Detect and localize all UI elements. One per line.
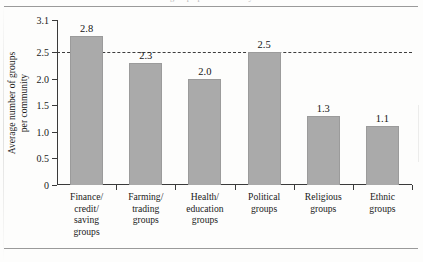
y-axis-line <box>57 20 58 185</box>
x-axis-category-line: trading <box>114 203 178 215</box>
plot-area: 00.51.01.52.02.53.1 2.8Finance/credit/sa… <box>57 20 412 185</box>
bar-value-label: 2.0 <box>198 66 211 77</box>
x-axis-category-line: groups <box>232 203 296 215</box>
x-axis-category-label: Politicalgroups <box>232 191 296 214</box>
x-axis-category-line: Religious <box>291 191 355 203</box>
bar-value-label: 2.5 <box>258 39 271 50</box>
bar-value-label: 2.3 <box>139 50 152 61</box>
y-axis-title-text: Average number of groups per community <box>6 51 29 153</box>
bar-value-label: 2.8 <box>80 23 93 34</box>
y-tick-mark <box>52 132 57 133</box>
x-axis-category-line: Ethnic <box>350 191 414 203</box>
bar[interactable]: 1.3Religiousgroups <box>307 116 340 185</box>
x-tick-mark <box>235 185 236 190</box>
y-axis-title-line-1: Average number of groups <box>6 51 18 153</box>
x-tick-mark <box>412 185 413 190</box>
reference-line <box>57 52 412 53</box>
y-axis-title-line-2: per community <box>17 51 29 153</box>
bar[interactable]: 1.1Ethnicgroups <box>366 126 399 185</box>
x-tick-mark <box>294 185 295 190</box>
x-axis-category-line: Political <box>232 191 296 203</box>
bar[interactable]: 2.0Health/educationgroups <box>188 79 221 185</box>
bar-chart: Average number of groups per community 0… <box>0 0 423 262</box>
x-axis-category-line: groups <box>173 214 237 226</box>
y-tick-label: 1.5 <box>37 100 50 111</box>
bar-value-label: 1.3 <box>317 103 330 114</box>
bar[interactable]: 2.5Politicalgroups <box>248 52 281 185</box>
x-axis-category-line: Finance/ <box>55 191 119 203</box>
y-tick-label: 0.5 <box>37 153 50 164</box>
x-axis-category-line: groups <box>114 214 178 226</box>
x-axis-category-line: Farming/ <box>114 191 178 203</box>
bar[interactable]: 2.3Farming/tradinggroups <box>129 63 162 185</box>
x-tick-mark <box>116 185 117 190</box>
x-axis-category-label: Ethnicgroups <box>350 191 414 214</box>
bar-value-label: 1.1 <box>376 113 389 124</box>
x-axis-category-line: Health/ <box>173 191 237 203</box>
x-axis-category-line: groups <box>350 203 414 215</box>
y-tick-mark <box>52 20 57 21</box>
x-axis-category-label: Health/educationgroups <box>173 191 237 226</box>
x-tick-mark <box>175 185 176 190</box>
x-axis-category-label: Religiousgroups <box>291 191 355 214</box>
x-axis-category-line: groups <box>55 226 119 238</box>
x-axis-category-line: education <box>173 203 237 215</box>
y-tick-label: 3.1 <box>37 15 50 26</box>
y-tick-mark <box>52 158 57 159</box>
bar[interactable]: 2.8Finance/credit/savinggroups <box>70 36 103 185</box>
y-tick-mark <box>52 79 57 80</box>
y-axis-title: Average number of groups per community <box>4 20 30 185</box>
page-canvas: groups per community Average number of g… <box>0 0 423 262</box>
y-tick-label: 2.5 <box>37 46 50 57</box>
y-tick-label: 2.0 <box>37 73 50 84</box>
x-axis-category-line: credit/ <box>55 203 119 215</box>
x-axis-category-line: groups <box>291 203 355 215</box>
x-axis-category-line: saving <box>55 214 119 226</box>
y-tick-mark <box>52 185 57 186</box>
x-axis-category-label: Finance/credit/savinggroups <box>55 191 119 237</box>
y-tick-label: 1.0 <box>37 126 50 137</box>
x-axis-category-label: Farming/tradinggroups <box>114 191 178 226</box>
y-tick-label: 0 <box>44 180 49 191</box>
y-tick-mark <box>52 105 57 106</box>
x-tick-mark <box>353 185 354 190</box>
